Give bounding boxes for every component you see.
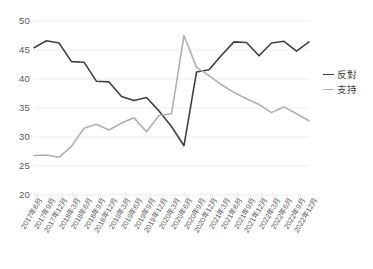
legend-swatch-icon <box>323 74 334 75</box>
y-axis-tick-label: 35 <box>2 103 30 113</box>
legend-item[interactable]: 支持 <box>323 83 373 96</box>
plot-area <box>34 21 309 195</box>
legend-item-label: 反對 <box>337 70 357 80</box>
y-axis-tick-label: 25 <box>2 161 30 171</box>
chart-legend: 反對支持 <box>323 68 373 98</box>
y-axis-tick-label: 30 <box>2 132 30 142</box>
legend-item[interactable]: 反對 <box>323 68 373 81</box>
plot-svg <box>34 21 309 195</box>
y-axis-tick-label: 20 <box>2 190 30 200</box>
series-line-反對 <box>34 41 309 146</box>
series-line-支持 <box>34 36 309 158</box>
y-axis-tick-label: 40 <box>2 74 30 84</box>
legend-item-label: 支持 <box>337 85 357 95</box>
y-axis-tick-label: 50 <box>2 16 30 26</box>
line-chart: 50454035302520 2017年6月2017年9月2017年12月201… <box>0 0 373 269</box>
legend-swatch-icon <box>323 89 334 90</box>
y-axis-tick-label: 45 <box>2 45 30 55</box>
x-axis: 2017年6月2017年9月2017年12月2018年3月2018年6月2018… <box>34 197 324 269</box>
